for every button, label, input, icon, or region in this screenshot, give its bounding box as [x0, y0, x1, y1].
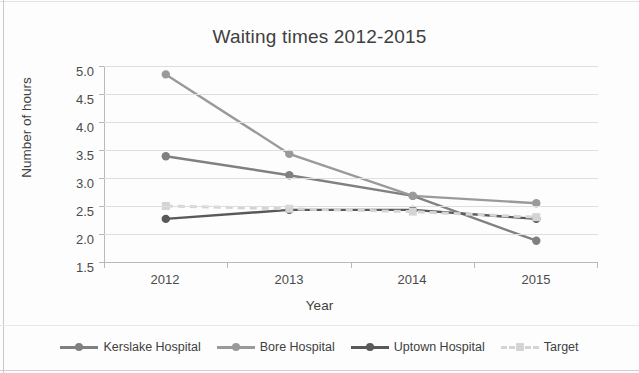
- legend-marker-kerslake-hospital: [60, 341, 98, 353]
- data-point-uptown-hospital-2012: [162, 215, 170, 223]
- y-tick-label-4: 3.5: [50, 149, 94, 162]
- legend-marker-bore-hospital: [217, 341, 255, 353]
- chart-legend: Kerslake Hospital Bore Hospital Uptown H…: [0, 340, 639, 354]
- chart-title: Waiting times 2012-2015: [0, 26, 639, 48]
- x-tick-mark: [227, 263, 228, 268]
- data-point-bore-hospital-2012: [162, 70, 170, 78]
- data-point-kerslake-hospital-2015: [532, 237, 540, 245]
- gridline: [104, 206, 598, 207]
- data-point-bore-hospital-2014: [409, 192, 417, 200]
- x-tick-mark: [351, 263, 352, 268]
- frame-border-bottom: [0, 370, 639, 371]
- legend-label-target: Target: [544, 340, 579, 354]
- y-tick-label-0: 1.5: [50, 261, 94, 274]
- x-axis-title: Year: [0, 298, 639, 313]
- series-line-kerslake-hospital: [166, 156, 537, 241]
- x-tick-mark: [597, 263, 598, 268]
- x-tick-mark: [474, 263, 475, 268]
- x-tick-label-2012: 2012: [125, 272, 205, 287]
- legend-item-kerslake-hospital[interactable]: Kerslake Hospital: [60, 340, 200, 354]
- chart-container: Waiting times 2012-2015 1.5 2.0 2.5 3.0 …: [0, 0, 639, 373]
- legend-label-bore-hospital: Bore Hospital: [260, 340, 335, 354]
- y-tick-label-3: 3.0: [50, 177, 94, 190]
- y-tick-label-7: 5.0: [50, 65, 94, 78]
- legend-marker-uptown-hospital: [351, 341, 389, 353]
- y-tick-label-5: 4.0: [50, 121, 94, 134]
- gridline: [104, 66, 598, 67]
- plot-area: [104, 66, 598, 262]
- series-lines: [104, 66, 598, 262]
- data-point-target-2014: [409, 208, 417, 216]
- gridline: [104, 94, 598, 95]
- gridline: [104, 234, 598, 235]
- legend-separator: [0, 325, 639, 326]
- y-tick-label-6: 4.5: [50, 93, 94, 106]
- legend-item-uptown-hospital[interactable]: Uptown Hospital: [351, 340, 485, 354]
- legend-marker-target: [501, 341, 539, 353]
- data-point-target-2015: [532, 213, 540, 221]
- y-tick-label-1: 2.0: [50, 233, 94, 246]
- legend-item-target[interactable]: Target: [501, 340, 579, 354]
- data-point-kerslake-hospital-2012: [162, 152, 170, 160]
- x-tick-label-2013: 2013: [249, 272, 329, 287]
- x-tick-label-2015: 2015: [496, 272, 576, 287]
- x-tick-label-2014: 2014: [372, 272, 452, 287]
- gridline: [104, 178, 598, 179]
- y-axis-title: Number of hours: [19, 58, 34, 198]
- frame-border-left: [3, 0, 4, 373]
- frame-border-top: [0, 1, 639, 2]
- gridline: [104, 150, 598, 151]
- legend-item-bore-hospital[interactable]: Bore Hospital: [217, 340, 335, 354]
- legend-label-uptown-hospital: Uptown Hospital: [394, 340, 485, 354]
- x-tick-mark: [104, 263, 105, 268]
- gridline: [104, 122, 598, 123]
- legend-label-kerslake-hospital: Kerslake Hospital: [103, 340, 200, 354]
- y-tick-label-2: 2.5: [50, 205, 94, 218]
